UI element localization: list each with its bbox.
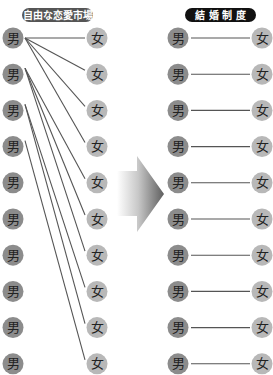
left-connection-lines [25,38,85,360]
woman-node-label: 女 [256,139,269,154]
left-men-column: 男男男男男男男男男男 [3,28,24,375]
woman-node: 女 [87,136,108,157]
woman-node: 女 [87,28,108,49]
woman-node-label: 女 [91,139,104,154]
man-node-label: 男 [7,284,20,299]
woman-node-label: 女 [256,284,269,299]
man-node: 男 [168,281,189,302]
woman-node: 女 [252,317,273,338]
man-node: 男 [168,100,189,121]
woman-node-label: 女 [91,248,104,263]
man-node: 男 [168,245,189,266]
woman-node-label: 女 [91,284,104,299]
man-node-label: 男 [7,67,20,82]
man-node: 男 [168,209,189,230]
woman-node-label: 女 [91,31,104,46]
woman-node: 女 [252,100,273,121]
woman-node-label: 女 [256,67,269,82]
woman-node-label: 女 [256,103,269,118]
woman-node-label: 女 [91,67,104,82]
man-node: 男 [3,64,24,85]
woman-node: 女 [252,353,273,374]
man-node-label: 男 [7,356,20,371]
woman-node-label: 女 [91,356,104,371]
man-node: 男 [168,136,189,157]
man-node-label: 男 [7,139,20,154]
woman-node: 女 [252,172,273,193]
man-node-label: 男 [172,248,185,263]
man-node-label: 男 [7,320,20,335]
man-node: 男 [3,136,24,157]
connection-line [25,68,85,179]
man-node: 男 [3,281,24,302]
man-node: 男 [168,28,189,49]
man-node-label: 男 [7,175,20,190]
woman-node: 女 [87,209,108,230]
woman-node: 女 [252,64,273,85]
woman-node-label: 女 [91,103,104,118]
man-node: 男 [3,172,24,193]
right-men-column: 男男男男男男男男男男 [168,28,189,375]
woman-node-label: 女 [91,175,104,190]
man-node: 男 [3,317,24,338]
man-node: 男 [168,317,189,338]
woman-node-label: 女 [256,175,269,190]
right-title-text: 結 婚 制 度 [195,9,246,21]
woman-node: 女 [87,317,108,338]
woman-node: 女 [87,353,108,374]
man-node: 男 [3,209,24,230]
woman-node-label: 女 [256,320,269,335]
left-women-column: 女女女女女女女女女女 [87,28,108,375]
man-node-label: 男 [7,31,20,46]
connection-line [25,104,85,287]
woman-node-label: 女 [256,356,269,371]
man-node-label: 男 [172,212,185,227]
man-node: 男 [168,353,189,374]
woman-node-label: 女 [256,31,269,46]
woman-node: 女 [252,136,273,157]
woman-node: 女 [87,64,108,85]
woman-node: 女 [87,172,108,193]
woman-node-label: 女 [91,212,104,227]
man-node: 男 [168,172,189,193]
man-node: 男 [3,353,24,374]
man-node-label: 男 [7,103,20,118]
man-node-label: 男 [172,356,185,371]
woman-node-label: 女 [256,248,269,263]
man-node-label: 男 [172,31,185,46]
man-node: 男 [3,28,24,49]
arrow-right-icon [117,156,164,232]
man-node: 男 [3,100,24,121]
man-node-label: 男 [172,284,185,299]
man-node-label: 男 [172,103,185,118]
woman-node-label: 女 [91,320,104,335]
woman-node-label: 女 [256,212,269,227]
woman-node: 女 [252,28,273,49]
connection-line [25,141,85,360]
man-node-label: 男 [172,320,185,335]
right-women-column: 女女女女女女女女女女 [252,28,273,375]
woman-node: 女 [252,245,273,266]
man-node-label: 男 [7,212,20,227]
connection-line [25,104,85,323]
man-node: 男 [3,245,24,266]
diagram: 自由な恋愛市場 結 婚 制 度 男男男男男男男男男男 女女女女女女女女女女 男男… [0,0,273,375]
man-node-label: 男 [7,248,20,263]
man-node-label: 男 [172,175,185,190]
woman-node: 女 [87,281,108,302]
woman-node: 女 [87,245,108,266]
man-node: 男 [168,64,189,85]
woman-node: 女 [252,209,273,230]
left-title-badge: 自由な恋愛市場 [22,8,93,22]
man-node-label: 男 [172,67,185,82]
left-title-text: 自由な恋愛市場 [23,9,93,21]
right-title-badge: 結 婚 制 度 [185,8,256,22]
right-pair-lines [191,38,250,364]
woman-node: 女 [252,281,273,302]
man-node-label: 男 [172,139,185,154]
woman-node: 女 [87,100,108,121]
